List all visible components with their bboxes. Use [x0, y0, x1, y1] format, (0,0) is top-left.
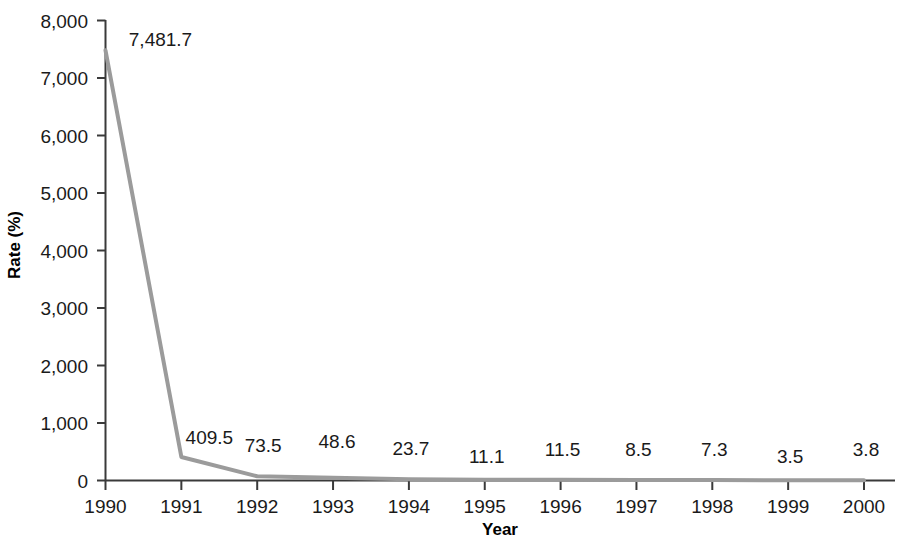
y-axis-tick-label: 4,000	[40, 241, 88, 262]
data-point-label: 8.5	[625, 439, 651, 460]
y-axis-title: Rate (%)	[5, 211, 24, 279]
y-axis-tick-label: 0	[77, 471, 88, 492]
y-axis-tick-labels: 01,0002,0003,0004,0005,0006,0007,0008,00…	[40, 11, 88, 492]
y-axis-tick-label: 1,000	[40, 413, 88, 434]
y-axis-tick-label: 7,000	[40, 68, 88, 89]
y-axis-tick-label: 3,000	[40, 298, 88, 319]
x-axis-tick-label: 1996	[539, 496, 581, 517]
y-axis-tick-label: 5,000	[40, 183, 88, 204]
x-axis-tick-label: 1994	[388, 496, 431, 517]
x-axis-tick-label: 1995	[464, 496, 506, 517]
x-axis-tick-label: 1991	[160, 496, 202, 517]
x-axis-tick-label: 1998	[691, 496, 733, 517]
line-chart-canvas: 01,0002,0003,0004,0005,0006,0007,0008,00…	[0, 0, 906, 543]
data-point-label: 73.5	[245, 435, 282, 456]
x-axis-tick-label: 1990	[84, 496, 126, 517]
chart-figure: 01,0002,0003,0004,0005,0006,0007,0008,00…	[0, 0, 906, 543]
data-point-label: 3.5	[777, 446, 803, 467]
data-point-label: 3.8	[853, 439, 879, 460]
x-axis-tick-label: 1999	[767, 496, 809, 517]
x-axis-title: Year	[482, 520, 518, 539]
data-point-label: 7,481.7	[129, 29, 192, 50]
chart-background	[0, 0, 906, 543]
data-point-label: 11.1	[469, 446, 505, 467]
data-point-label: 48.6	[319, 431, 356, 452]
data-point-label: 409.5	[186, 427, 234, 448]
y-axis-tick-label: 6,000	[40, 126, 88, 147]
data-point-label: 23.7	[392, 438, 429, 459]
y-axis-tick-label: 2,000	[40, 356, 88, 377]
data-point-label: 11.5	[545, 439, 581, 460]
y-axis-tick-label: 8,000	[40, 11, 88, 32]
x-axis-tick-label: 1997	[615, 496, 657, 517]
x-axis-tick-label: 1992	[236, 496, 278, 517]
x-axis-tick-label: 2000	[843, 496, 885, 517]
x-axis-tick-label: 1993	[312, 496, 354, 517]
data-point-label: 7.3	[701, 439, 727, 460]
